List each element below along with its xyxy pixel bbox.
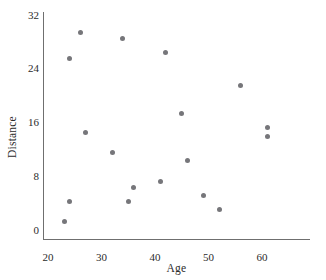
data-point — [217, 207, 222, 212]
data-point — [110, 150, 115, 155]
data-point — [163, 50, 168, 55]
data-point — [83, 130, 88, 135]
data-point — [78, 30, 83, 35]
data-point — [120, 36, 125, 41]
data-point — [179, 111, 184, 116]
data-point — [131, 185, 136, 190]
plot-area — [0, 0, 326, 280]
data-point — [67, 56, 72, 61]
data-point — [185, 158, 190, 163]
data-point — [265, 125, 270, 130]
data-point — [67, 199, 72, 204]
data-point — [201, 193, 206, 198]
data-point — [238, 83, 243, 88]
scatter-plot-figure: 08162432 2030405060 Distance Age — [0, 0, 326, 280]
data-point — [62, 219, 67, 224]
data-point — [158, 179, 163, 184]
data-point — [126, 199, 131, 204]
data-point — [265, 134, 270, 139]
